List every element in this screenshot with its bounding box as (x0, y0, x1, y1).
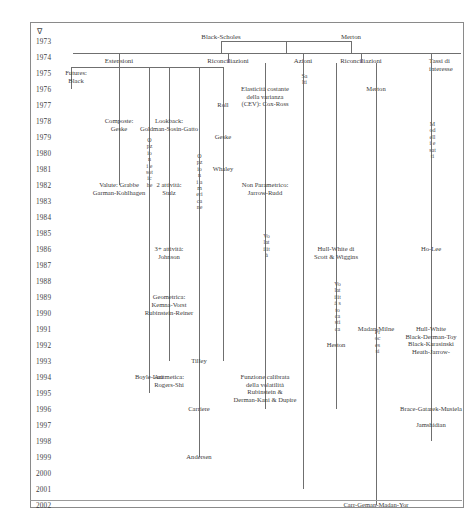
year-label: 1997 (36, 422, 51, 430)
node-jamshidian: Jamshidian (416, 421, 446, 429)
year-label: 1973 (36, 38, 51, 46)
node-line: Roll (217, 101, 228, 109)
vertical-label-volatilita: Volatilità (263, 233, 270, 259)
merton-drop-line (351, 41, 352, 53)
node-whaley: Whaley (213, 165, 234, 173)
esotiche-line (149, 67, 150, 393)
node-brace-gatarek-musiela: Brace-Gatarek-Musiela (400, 405, 462, 413)
vertical-label-opzioni-esotiche: Opzioni esotiche (146, 137, 153, 188)
year-label: 2002 (36, 502, 51, 510)
node-line: 2 attività: (156, 181, 181, 189)
year-label: 1990 (36, 310, 51, 318)
header-line: Black-Scholes (201, 33, 240, 41)
node-line: Derman-Kani & Dupire (234, 396, 297, 404)
node-line: Tilley (191, 357, 207, 365)
bottom-rule (30, 500, 462, 501)
node-valute-grabbe: Valute: GrabbeGarman-Kohlhagen (93, 181, 145, 196)
vertical-label-salti: Salti (301, 73, 308, 86)
black-scholes-drop-line (221, 41, 222, 53)
node-line: Black (65, 77, 87, 85)
option-pricing-genealogy-diagram: ∇ 19731974197519761977197819791980198119… (0, 0, 474, 532)
node-line: Non Parametrico: (242, 181, 289, 189)
origin-marker-icon: ∇ (37, 27, 42, 36)
year-label: 1980 (36, 150, 51, 158)
category-drop-azioni (303, 53, 304, 63)
node-roll: Roll (217, 101, 228, 109)
year-label: 1991 (36, 326, 51, 334)
node-ho-lee: Ho-Lee (421, 245, 441, 253)
year-label: 1983 (36, 198, 51, 206)
node-line: Elasticità costante (241, 85, 289, 93)
category-spine-line (73, 53, 461, 54)
node-futures-black: Futures:Black (65, 69, 87, 84)
node-due-attivita-stulz: 2 attività:Stulz (156, 181, 181, 196)
node-andersen: Andersen (186, 453, 211, 461)
node-carr-geman-madan-yor: Carr-Geman-Madan-Yor (343, 501, 408, 509)
node-line: Hull-White di (314, 245, 358, 253)
diagram-frame: ∇ 19731974197519761977197819791980198119… (30, 22, 464, 508)
salti-line (336, 63, 337, 409)
node-geske: Geske (215, 133, 231, 141)
node-line: della varianza (241, 93, 289, 101)
year-label: 1995 (36, 390, 51, 398)
node-lookback-goldman: Lookback:Goldman-Sosin-Gatto (140, 117, 198, 132)
root-label-black-scholes: Black-Scholes (201, 33, 240, 41)
node-composte-geske: Composte:Geske (105, 117, 134, 132)
header-line: interesse (429, 65, 453, 73)
year-label: 1993 (36, 358, 51, 366)
node-line: Stulz (156, 189, 181, 197)
year-label: 1994 (36, 374, 51, 382)
year-label: 1978 (36, 118, 51, 126)
node-line: Futures: (65, 69, 87, 77)
node-line: Black-Karasinski (405, 340, 456, 348)
year-label: 1984 (36, 214, 51, 222)
lookback-line (169, 67, 170, 361)
year-label: 1982 (36, 182, 51, 190)
category-drop-riconciliazioni-1 (228, 53, 229, 63)
node-line: Aritmetica: (154, 373, 184, 381)
year-label: 2000 (36, 470, 51, 478)
node-line: Rubinstein-Reiner (145, 309, 193, 317)
year-label: 1985 (36, 230, 51, 238)
node-line: Johnson (155, 253, 184, 261)
node-line: Lookback: (140, 117, 198, 125)
node-hull-white-bdt: Hull-WhiteBlack-Derman-ToyBlack-Karasins… (405, 325, 456, 355)
node-line: Hull-White (405, 325, 456, 333)
year-axis: ∇ 19731974197519761977197819791980198119… (31, 23, 61, 507)
year-label: 1981 (36, 166, 51, 174)
americane-line (199, 67, 200, 457)
year-label: 1986 (36, 246, 51, 254)
year-label: 2001 (36, 486, 51, 494)
year-label: 1979 (36, 134, 51, 142)
estensioni-spine (71, 67, 223, 68)
node-line: Valute: Grabbe (93, 181, 145, 189)
category-drop-tassi-di-interesse (431, 53, 432, 63)
node-geometrica-kemna-vorst: Geometrica:Kemna-Vorst (151, 293, 186, 308)
node-line: Geometrica: (151, 293, 186, 301)
node-heston: Heston (327, 341, 346, 349)
category-label-tassi-di-interesse: Tassi diinteresse (429, 57, 453, 73)
vertical-label-processi: Processi (374, 329, 381, 355)
vertical-label-opzioni-americane: Opzioni americane (196, 153, 203, 211)
year-label: 1988 (36, 278, 51, 286)
node-hull-white-scott-wiggins: Hull-White diScott & Wiggins (314, 245, 358, 260)
node-cev-cox-ross: Elasticità costantedella varianza(CEV): … (241, 85, 289, 108)
node-line: Geske (215, 133, 231, 141)
node-tilley: Tilley (191, 357, 207, 365)
root-drop-line (286, 41, 287, 53)
node-aritmetica-rogers-shi: Aritmetica:Rogers-Shi (154, 373, 184, 388)
year-label: 1987 (36, 262, 51, 270)
node-carriere: Carriere (188, 405, 210, 413)
node-line: Rubinstein & (234, 388, 297, 396)
node-line: Goldman-Sosin-Gatto (140, 125, 198, 133)
node-line: Andersen (186, 453, 211, 461)
node-line: Heath-Jarrow- (405, 348, 456, 356)
node-line: Jarrow-Rudd (242, 189, 289, 197)
azioni-line (303, 63, 304, 489)
year-label: 1992 (36, 342, 51, 350)
node-line: Carriere (188, 405, 210, 413)
vertical-label-modelli-esatti: Modelli esatti (429, 121, 436, 159)
header-line: Merton (341, 33, 361, 41)
node-funzione-calibrata: Funzione calibratadella volatilitàRubins… (234, 373, 297, 403)
year-label: 1996 (36, 406, 51, 414)
